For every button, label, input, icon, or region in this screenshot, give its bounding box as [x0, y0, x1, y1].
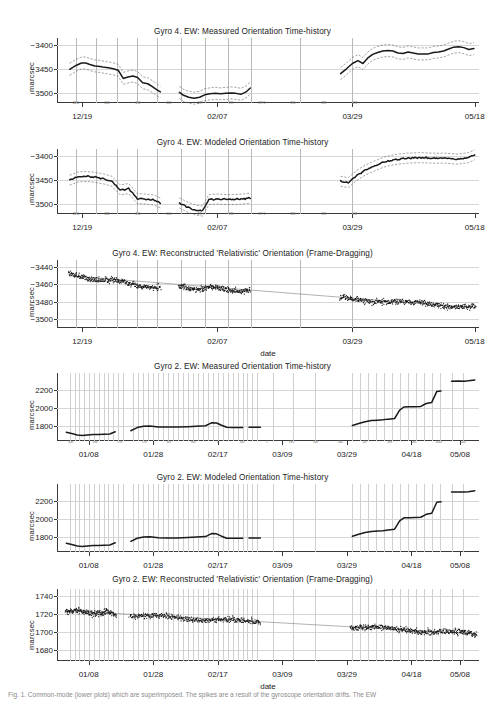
- data-point: [408, 629, 409, 630]
- data-point: [462, 305, 463, 306]
- gridline-vertical: [233, 589, 234, 661]
- data-point: [400, 301, 401, 302]
- gridline-vertical: [218, 589, 219, 661]
- data-point: [453, 306, 454, 307]
- data-point: [471, 635, 472, 636]
- data-point: [67, 614, 68, 615]
- data-point: [85, 276, 86, 277]
- plot-area: [57, 260, 479, 328]
- data-point: [473, 635, 474, 636]
- data-point: [199, 288, 200, 289]
- data-point: [234, 291, 235, 292]
- data-point: [119, 283, 120, 284]
- data-point: [376, 627, 377, 628]
- data-point: [97, 281, 98, 282]
- data-point: [386, 301, 387, 302]
- data-point: [196, 288, 197, 289]
- y-tick-mark: [54, 302, 58, 303]
- data-point: [151, 617, 152, 618]
- data-point: [200, 618, 201, 619]
- data-point: [373, 301, 374, 302]
- data-point: [76, 276, 77, 277]
- data-point: [139, 286, 140, 287]
- segment-label: 144: [461, 440, 466, 444]
- data-point: [99, 279, 100, 280]
- data-point: [423, 632, 424, 633]
- y-tick-label: 1680: [15, 646, 53, 655]
- data-point: [468, 633, 469, 634]
- data-point: [362, 628, 363, 629]
- gridline-vertical: [157, 38, 158, 103]
- data-point: [458, 308, 459, 309]
- x-tick-label: 01/08: [79, 561, 99, 570]
- data-point: [236, 621, 237, 622]
- data-point: [78, 609, 79, 610]
- gridline-vertical: [352, 373, 353, 441]
- data-point: [90, 281, 91, 282]
- data-point: [177, 618, 178, 619]
- data-point: [196, 289, 197, 290]
- data-point: [406, 631, 407, 632]
- x-tick-mark: [218, 441, 219, 445]
- data-point: [119, 281, 120, 282]
- data-point: [141, 614, 142, 615]
- data-point: [370, 301, 371, 302]
- data-point: [77, 276, 78, 277]
- data-point: [198, 289, 199, 290]
- data-point: [219, 620, 220, 621]
- data-point: [352, 299, 353, 300]
- data-point: [196, 619, 197, 620]
- data-point: [451, 630, 452, 631]
- data-point: [366, 628, 367, 629]
- data-point: [249, 620, 250, 621]
- data-point: [378, 300, 379, 301]
- data-point: [460, 630, 461, 631]
- data-point: [173, 616, 174, 617]
- data-point: [225, 287, 226, 288]
- data-point: [166, 614, 167, 615]
- gridline-vertical: [293, 484, 294, 552]
- data-point: [237, 291, 238, 292]
- data-point: [413, 303, 414, 304]
- gridline-vertical: [193, 373, 194, 441]
- data-point: [95, 616, 96, 617]
- chart-panel-gyro2-relativistic: Gyro 2. EW: Reconstructed 'Relativistic'…: [0, 0, 485, 703]
- gridline-vertical: [218, 484, 219, 552]
- data-point: [441, 632, 442, 633]
- data-point: [380, 302, 381, 303]
- data-point: [203, 288, 204, 289]
- data-point: [374, 302, 375, 303]
- data-point: [228, 620, 229, 621]
- data-point: [444, 628, 445, 629]
- data-trace: [66, 543, 115, 547]
- data-point: [110, 612, 111, 613]
- gridline-vertical: [148, 373, 149, 441]
- data-point: [239, 619, 240, 620]
- data-point: [109, 613, 110, 614]
- data-point: [180, 287, 181, 288]
- gridline-vertical: [178, 484, 179, 552]
- data-point: [463, 307, 464, 308]
- data-point: [118, 282, 119, 283]
- data-point: [198, 288, 199, 289]
- data-point: [249, 290, 250, 291]
- data-point: [389, 626, 390, 627]
- data-point: [200, 620, 201, 621]
- data-point: [111, 612, 112, 613]
- data-point: [103, 612, 104, 613]
- data-point: [160, 289, 161, 290]
- data-point: [94, 279, 95, 280]
- data-point: [113, 280, 114, 281]
- data-point: [157, 288, 158, 289]
- y-tick-mark: [54, 156, 58, 157]
- y-tick-label: −3500: [15, 315, 53, 324]
- data-point: [359, 627, 360, 628]
- data-point: [94, 613, 95, 614]
- data-point: [351, 297, 352, 298]
- data-point: [82, 277, 83, 278]
- data-point: [410, 631, 411, 632]
- gridline-vertical: [178, 589, 179, 661]
- data-point: [355, 628, 356, 629]
- data-point: [104, 613, 105, 614]
- data-point: [403, 629, 404, 630]
